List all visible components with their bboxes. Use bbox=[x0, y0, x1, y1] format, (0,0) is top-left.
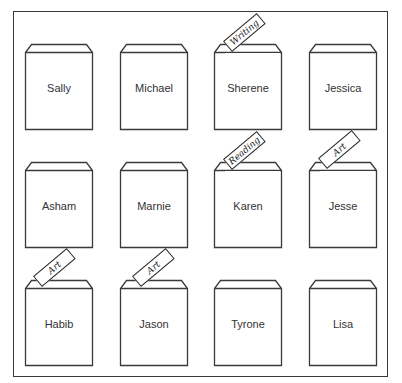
pocket-sally[interactable]: Sally bbox=[25, 44, 93, 130]
pocket-lip bbox=[225, 53, 280, 59]
pocket-name: Jason bbox=[120, 318, 188, 330]
pocket-name: Asham bbox=[25, 200, 93, 212]
pocket-tyrone[interactable]: Tyrone bbox=[214, 280, 282, 366]
pocket-name: Jesse bbox=[309, 200, 377, 212]
pocket-name: Marnie bbox=[120, 200, 188, 212]
pocket-name: Jessica bbox=[309, 82, 377, 94]
pocket-name: Lisa bbox=[309, 318, 377, 330]
pocket-marnie[interactable]: Marnie bbox=[120, 162, 188, 248]
pocket-name: Habib bbox=[25, 318, 93, 330]
pocket-lip bbox=[134, 290, 185, 296]
pocket-michael[interactable]: Michael bbox=[120, 44, 188, 130]
pocket-lip bbox=[225, 171, 280, 177]
pocket-lip bbox=[35, 290, 91, 296]
pocket-name: Michael bbox=[120, 82, 188, 94]
pocket-name: Sally bbox=[25, 82, 93, 94]
pocket-jessica[interactable]: Jessica bbox=[309, 44, 377, 130]
pocket-name: Tyrone bbox=[214, 318, 282, 330]
pocket-lisa[interactable]: Lisa bbox=[309, 280, 377, 366]
pocket-name: Sherene bbox=[214, 82, 282, 94]
pocket-name: Karen bbox=[214, 200, 282, 212]
pocket-lip bbox=[320, 171, 375, 177]
pocket-asham[interactable]: Asham bbox=[25, 162, 93, 248]
